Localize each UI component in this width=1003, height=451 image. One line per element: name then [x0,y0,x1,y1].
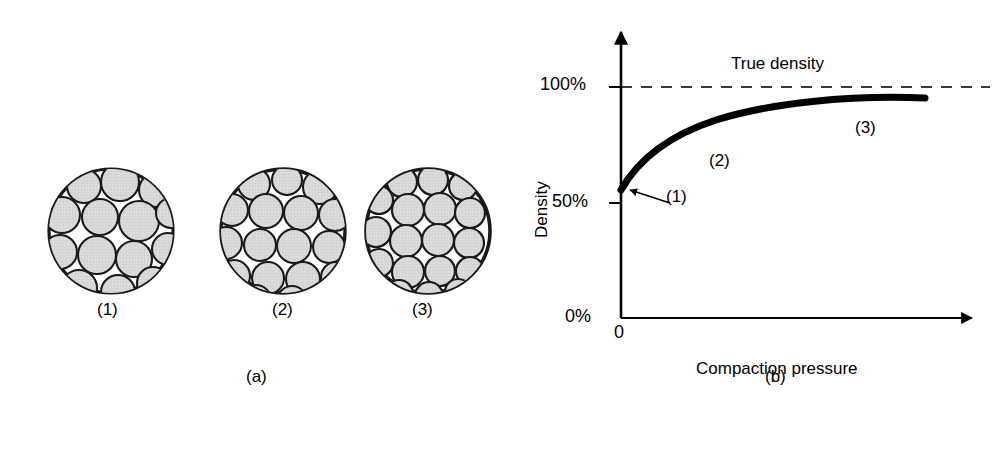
stage-label-2: (2) [272,300,293,320]
powder-compact-stage-1 [43,163,186,309]
y-tick-label-100: 100% [540,74,586,95]
powder-compact-stage-2 [210,165,351,316]
y-tick-label-50: 50% [552,191,588,212]
panel-a-caption: (a) [246,367,267,387]
curve-note-2: (2) [709,151,730,171]
panel-a-powder-stages: (1) (2) (3) (a) [0,0,520,451]
curve-note-3: (3) [855,118,876,138]
true-density-label: True density [731,54,824,74]
panel-b-density-chart: 100% 50% 0% 0 Density Compaction pressur… [520,0,1003,451]
curve-note-1: (1) [666,187,687,207]
powder-compact-stage-3 [361,165,490,310]
y-tick-label-0: 0% [565,306,591,327]
figure-root: (1) (2) (3) (a) [0,0,1003,451]
density-curve [621,97,925,190]
stage-1-leader-line [630,190,670,203]
y-axis-title: Density [532,181,552,238]
stage-label-3: (3) [412,300,433,320]
x-axis-origin-label: 0 [614,322,624,343]
panel-b-caption: (b) [765,367,786,387]
stage-label-1: (1) [97,300,118,320]
